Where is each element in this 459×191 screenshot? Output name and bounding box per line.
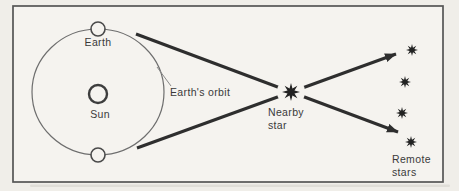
parallax-diagram: Earth Sun Earth's orbit Nearby star Remo…	[0, 0, 459, 191]
scan-artifact	[30, 185, 450, 188]
earth-position-top	[91, 22, 105, 36]
figure-canvas: Earth Sun Earth's orbit Nearby star Remo…	[0, 0, 459, 191]
orbit-label: Earth's orbit	[170, 86, 230, 98]
nearby-star-label-line2: star	[268, 119, 287, 131]
remote-star-icon	[406, 44, 418, 56]
remote-star-icon	[399, 76, 411, 88]
remote-star-icon	[405, 136, 417, 148]
sun-label: Sun	[90, 108, 110, 120]
sun-circle	[89, 85, 107, 103]
remote-star-icon	[396, 107, 408, 119]
nearby-star-label-line1: Nearby	[268, 106, 304, 118]
remote-stars-label-line1: Remote	[392, 153, 431, 165]
nearby-star-icon	[282, 83, 300, 101]
earth-position-bottom	[91, 148, 105, 162]
remote-stars-label-line2: stars	[392, 166, 417, 178]
earth-label: Earth	[85, 36, 112, 48]
